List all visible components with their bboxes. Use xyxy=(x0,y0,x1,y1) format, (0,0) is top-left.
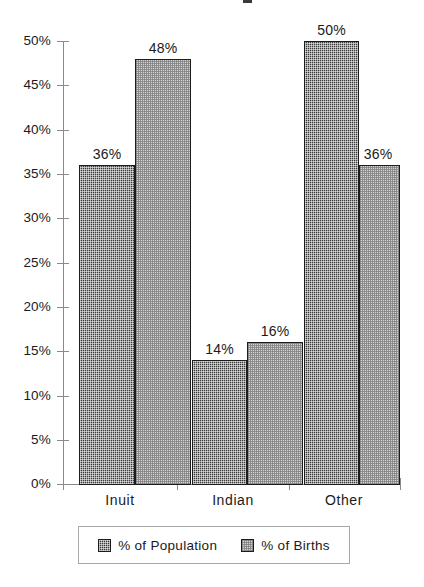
bar-value-label: 16% xyxy=(247,323,303,339)
y-axis-tick-label: 30% xyxy=(0,210,51,225)
y-axis-tick-label: 40% xyxy=(0,122,51,137)
bar-other-population xyxy=(304,41,359,485)
bar-value-label: 14% xyxy=(192,341,247,357)
y-axis-tick xyxy=(57,307,69,308)
y-axis-tick-label: 45% xyxy=(0,77,51,92)
chart-legend: % of Population % of Births xyxy=(78,526,350,564)
y-axis-tick-label: 5% xyxy=(0,432,51,447)
x-axis-tick xyxy=(400,478,401,490)
y-axis-tick-label: 0% xyxy=(0,476,51,491)
bar-value-label: 36% xyxy=(79,146,135,162)
y-axis-tick xyxy=(57,218,69,219)
x-axis-category-label: Inuit xyxy=(78,492,162,508)
legend-swatch-dark-icon xyxy=(98,539,111,552)
y-axis-tick xyxy=(57,174,69,175)
y-axis-tick-label: 20% xyxy=(0,299,51,314)
bar-inuit-births xyxy=(135,59,191,485)
y-axis-tick xyxy=(57,85,69,86)
y-axis-tick-label: 35% xyxy=(0,166,51,181)
y-axis-tick xyxy=(57,130,69,131)
x-axis-tick xyxy=(63,478,64,490)
y-axis-tick-label: 15% xyxy=(0,343,51,358)
y-axis-tick xyxy=(57,351,69,352)
legend-item-population: % of Population xyxy=(98,538,217,553)
y-axis-tick-label: 25% xyxy=(0,255,51,270)
bar-other-births xyxy=(359,165,400,485)
y-axis-tick xyxy=(57,263,69,264)
bar-indian-population xyxy=(192,360,247,485)
bar-indian-births xyxy=(247,342,303,485)
bar-chart: 50% 45% 40% 35% 30% 25% 20% 15% 10% 5% 0… xyxy=(0,0,424,587)
legend-label: % of Population xyxy=(118,538,217,553)
bar-value-label: 48% xyxy=(135,40,191,56)
y-axis-tick xyxy=(57,41,69,42)
x-axis-category-label: Other xyxy=(302,492,386,508)
legend-swatch-light-icon xyxy=(241,539,254,552)
legend-label: % of Births xyxy=(261,538,330,553)
bar-inuit-population xyxy=(79,165,135,485)
y-axis-tick-label: 10% xyxy=(0,388,51,403)
bar-value-label: 50% xyxy=(304,22,359,38)
y-axis-tick-label: 50% xyxy=(0,33,51,48)
y-axis-tick xyxy=(57,440,69,441)
x-axis-category-label: Indian xyxy=(190,492,276,508)
legend-item-births: % of Births xyxy=(241,538,330,553)
bar-value-label: 36% xyxy=(350,146,406,162)
y-axis-tick xyxy=(57,396,69,397)
